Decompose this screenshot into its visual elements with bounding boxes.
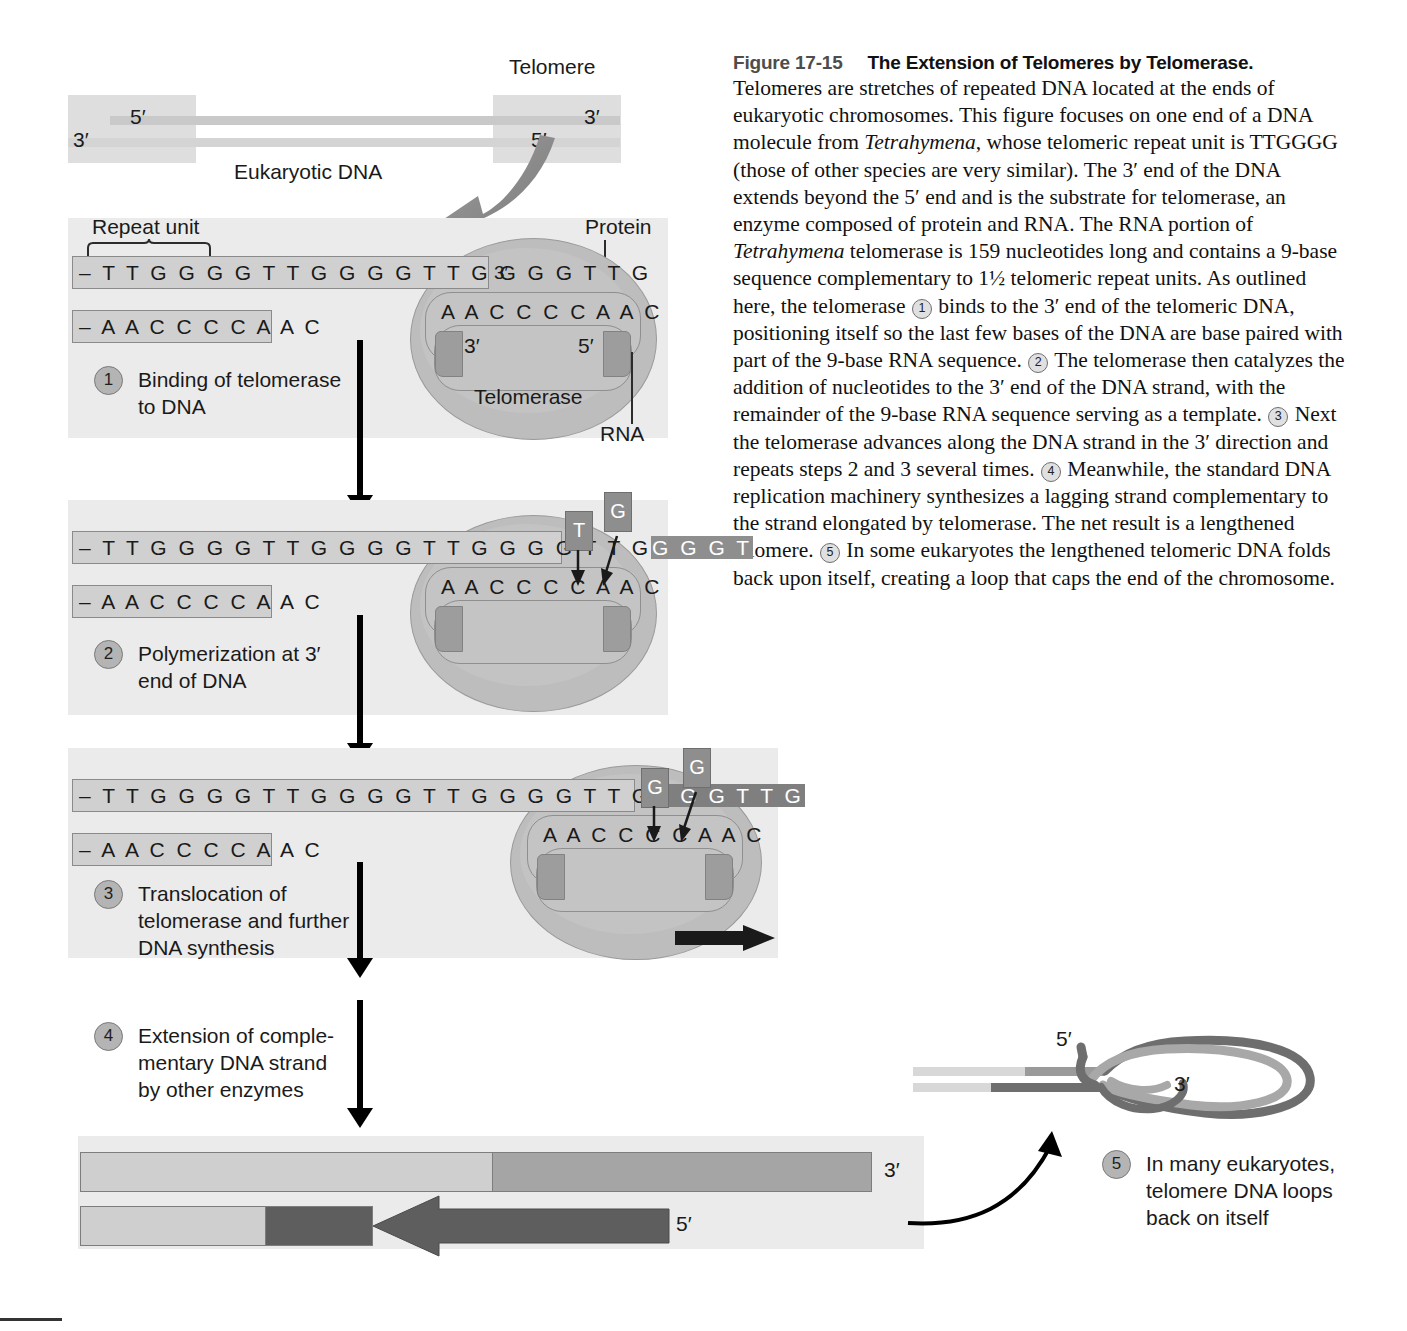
final-5prime-label: 5′ [676, 1212, 692, 1236]
left-5prime-label: 5′ [130, 105, 146, 129]
step-5-pointer-arrow [900, 1095, 1120, 1235]
step-5-line-2: telomere DNA loops [1146, 1179, 1333, 1202]
rna-template-sequence-1: A A C C C C A A C [441, 300, 662, 324]
rna-5prime-nub-2 [603, 606, 631, 652]
incoming-nucleotide-G2-3: G [683, 748, 711, 788]
new-nucleotides-2: G G G T [651, 536, 753, 559]
right-3prime-label: 3′ [584, 105, 600, 129]
page-edge-mark [0, 1318, 62, 1321]
step-4-line-1: Extension of comple- [138, 1024, 334, 1047]
dna-bottom-strand-2: – A A C C C C A A C [72, 585, 272, 618]
flow-arrow-1 [357, 340, 363, 498]
step-3-line-1: Translocation of [138, 882, 287, 905]
inline-marker-1: 1 [912, 299, 932, 319]
rna-5prime-nub-3 [705, 854, 733, 900]
step-number-1: 1 [94, 366, 123, 395]
incoming-nucleotide-G-2: G [604, 492, 632, 532]
step-4-line-2: mentary DNA strand [138, 1051, 327, 1074]
rna-3prime-nub-1 [435, 331, 463, 377]
step-3-text: Translocation of telomerase and further … [138, 880, 349, 961]
telomerase-label-1: Telomerase [474, 385, 583, 409]
step-1-text: Binding of telomerase to DNA [138, 366, 341, 420]
protein-label: Protein [585, 215, 652, 239]
step-number-3: 3 [94, 880, 123, 909]
step-3-line-3: DNA synthesis [138, 936, 275, 959]
flow-arrow-4 [357, 1000, 363, 1110]
flow-arrow-2 [357, 615, 363, 745]
dna-top-strand-2: – T T G G G G T T G G G G T T G G G G T … [72, 531, 562, 564]
overview-strand-top [110, 116, 620, 125]
flow-arrow-4-head [347, 1108, 373, 1128]
loop-3prime-label: 3′ [1174, 1072, 1190, 1096]
inline-marker-2: 2 [1028, 353, 1048, 373]
flow-arrow-3-head [347, 958, 373, 978]
rna-label-1: RNA [600, 422, 644, 446]
rna-5prime-label-1: 5′ [578, 334, 594, 358]
inline-marker-5: 5 [820, 543, 840, 563]
step-number-5: 5 [1102, 1150, 1131, 1179]
final-3prime-label: 3′ [884, 1158, 900, 1182]
step-4-line-3: by other enzymes [138, 1078, 304, 1101]
repeat-unit-label: Repeat unit [92, 215, 199, 239]
step-number-4: 4 [94, 1022, 123, 1051]
step-2-text: Polymerization at 3′ end of DNA [138, 640, 321, 694]
step-2-line-2: end of DNA [138, 669, 247, 692]
dna-bottom-strand-3: – A A C C C C A A C [72, 833, 272, 866]
figure-number: Figure 17-15 [733, 52, 843, 73]
species-name-2: Tetrahymena [733, 239, 844, 263]
inline-marker-4: 4 [1041, 462, 1061, 482]
step-5-line-3: back on itself [1146, 1206, 1269, 1229]
final-bottom-strand-original [80, 1206, 266, 1246]
dna-bottom-strand-1: – A A C C C C A A C [72, 310, 272, 343]
species-name-1: Tetrahymena [864, 130, 975, 154]
eukaryotic-dna-label: Eukaryotic DNA [234, 160, 382, 184]
final-top-strand-extended [492, 1152, 872, 1192]
figure-heading: Figure 17-15 The Extension of Telomeres … [733, 52, 1345, 74]
left-3prime-label: 3′ [73, 128, 89, 152]
telomere-label: Telomere [509, 55, 595, 79]
figure-title: The Extension of Telomeres by Telomerase… [867, 52, 1253, 73]
incoming-arrows-3 [636, 784, 736, 856]
rna-leader-line [631, 352, 633, 424]
dna-top-strand-1: – T T G G G G T T G G G G T T G G G G T … [72, 256, 489, 289]
step-1-line-1: Binding of telomerase [138, 368, 341, 391]
step-1-line-2: to DNA [138, 395, 206, 418]
figure-caption-block: Figure 17-15 The Extension of Telomeres … [733, 52, 1345, 592]
loop-5prime-label: 5′ [1056, 1027, 1072, 1051]
step-2-line-1: Polymerization at 3′ [138, 642, 321, 665]
step-5-line-1: In many eukaryotes, [1146, 1152, 1335, 1175]
step-5-text: In many eukaryotes, telomere DNA loops b… [1146, 1150, 1335, 1231]
rna-3prime-nub-3 [537, 854, 565, 900]
translocation-arrow [675, 925, 780, 959]
final-top-strand-original [80, 1152, 493, 1192]
dna-3prime-label-1: 3′ [494, 262, 508, 284]
rna-3prime-label-1: 3′ [464, 334, 480, 358]
rna-3prime-nub-2 [435, 606, 463, 652]
lagging-strand-arrow [373, 1196, 673, 1256]
inline-marker-3: 3 [1268, 407, 1288, 427]
rna-5prime-nub-1 [603, 331, 631, 377]
flow-arrow-3 [357, 862, 363, 960]
final-bottom-strand-new [265, 1206, 373, 1246]
incoming-arrows-2 [560, 528, 660, 600]
step-number-2: 2 [94, 640, 123, 669]
dna-top-strand-3: – T T G G G G T T G G G G T T G G G G T … [72, 779, 635, 812]
step-3-line-2: telomerase and further [138, 909, 349, 932]
step-4-text: Extension of comple- mentary DNA strand … [138, 1022, 334, 1103]
figure-caption-text: Telomeres are stretches of repeated DNA … [733, 75, 1345, 592]
